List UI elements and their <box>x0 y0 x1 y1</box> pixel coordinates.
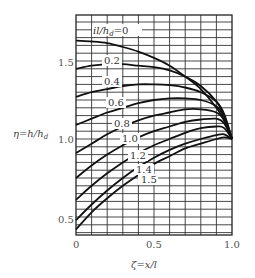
x-tick-1.0: 1.0 <box>224 239 240 250</box>
curve-label-1.0: 1.0 <box>122 133 138 144</box>
x-tick-0.5: 0.5 <box>146 239 162 250</box>
x-axis-label: ζ=x/l <box>131 259 157 270</box>
chart: il/hd=0 0.2 0.4 0.6 0.8 1.0 1.2 1.4 1.5 … <box>0 0 255 278</box>
curve-label-1.5: 1.5 <box>141 174 157 185</box>
y-tick-0.5: 0.5 <box>58 214 74 225</box>
curve-label-1.2: 1.2 <box>130 150 146 161</box>
curve-label-0.8: 0.8 <box>114 118 130 129</box>
grid <box>76 15 232 235</box>
y-axis-label: η=h/hd <box>13 128 49 141</box>
curve-label-0.2: 0.2 <box>104 55 120 66</box>
y-tick-1.0: 1.0 <box>58 134 74 145</box>
curve-label-0.4: 0.4 <box>104 76 120 87</box>
curve-label-0.6: 0.6 <box>108 97 124 108</box>
y-tick-1.5: 1.5 <box>58 57 74 68</box>
x-tick-0: 0 <box>73 239 79 250</box>
